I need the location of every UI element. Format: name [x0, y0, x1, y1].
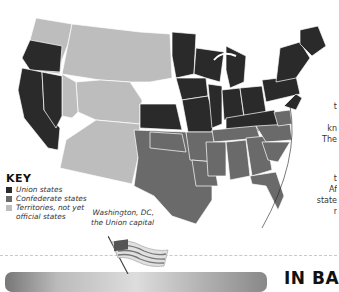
key-label: Union states — [16, 185, 62, 194]
heading-prefix: IN — [284, 268, 312, 288]
confederate-swatch — [6, 196, 12, 202]
battle-photo — [5, 272, 267, 292]
callout-line2: the Union capital — [58, 218, 154, 228]
side-text-line: Af — [295, 184, 337, 195]
side-text-line: t — [295, 101, 337, 112]
us-flag-image — [108, 236, 178, 274]
union-swatch — [6, 187, 12, 193]
side-text-line: The — [295, 134, 337, 145]
key-item-confederate: Confederate states — [6, 194, 87, 203]
key-label: Confederate states — [16, 194, 87, 203]
section-heading: IN BA — [284, 268, 339, 288]
territory-swatch — [6, 205, 12, 211]
heading-bold: BA — [312, 268, 339, 288]
side-text-line: kn — [295, 123, 337, 134]
side-text-line: t — [295, 173, 337, 184]
washington-callout: Washington, DC, the Union capital — [58, 208, 154, 228]
callout-line1: Washington, DC, — [58, 208, 154, 218]
side-text-line: r — [295, 206, 337, 217]
side-text-line: state — [295, 195, 337, 206]
key-title: KEY — [6, 173, 87, 185]
key-item-union: Union states — [6, 185, 87, 194]
